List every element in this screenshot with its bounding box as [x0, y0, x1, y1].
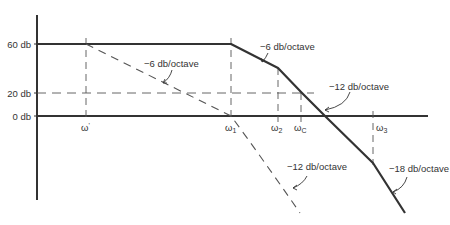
- bode-diagram: 60 db 20 db 0 db ω' ω1 ω2 ωC ω3 −6 db/oc…: [0, 0, 450, 225]
- magnitude-solid-curve: [37, 44, 405, 213]
- label-0db: 0 db: [13, 111, 32, 122]
- arrow-solid-18db: [393, 177, 407, 194]
- arrow-solid-6db: [261, 53, 268, 62]
- arrow-solid-12db: [325, 92, 350, 112]
- label-20db: 20 db: [7, 88, 31, 99]
- label-omega-prime: ω': [81, 122, 90, 133]
- bode-plot-svg: 60 db 20 db 0 db ω' ω1 ω2 ωC ω3 −6 db/oc…: [0, 0, 450, 225]
- annotation-dashed-minus-6db: −6 db/octave: [144, 58, 199, 69]
- magnitude-dashed-curve: [86, 44, 300, 213]
- label-omega-2: ω2: [271, 122, 282, 134]
- annotation-solid-minus-18db: −18 db/octave: [389, 163, 449, 174]
- arrow-dashed-6db: [163, 70, 172, 83]
- label-omega-c: ωC: [294, 122, 306, 134]
- arrow-dashed-12db: [293, 176, 307, 190]
- annotation-dashed-minus-12db: −12 db/octave: [287, 161, 347, 172]
- label-omega-1: ω1: [225, 122, 236, 134]
- label-60db: 60 db: [7, 39, 31, 50]
- annotation-solid-minus-6db: −6 db/octave: [260, 41, 315, 52]
- label-omega-3: ω3: [376, 122, 387, 134]
- annotation-solid-minus-12db: −12 db/octave: [329, 81, 389, 92]
